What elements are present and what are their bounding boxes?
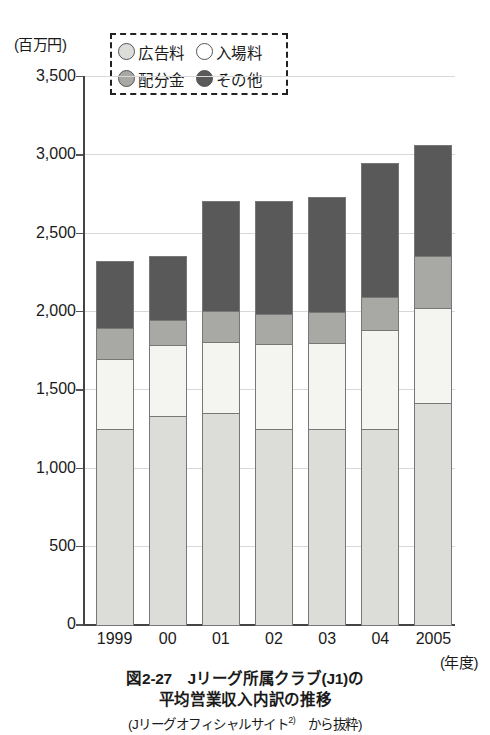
y-tick-1000 xyxy=(76,468,83,469)
bar-segment-2005-入場料 xyxy=(414,308,452,404)
bar-segment-02-その他 xyxy=(255,201,293,315)
bar-segment-2005-その他 xyxy=(414,145,452,258)
y-tick-label-2000: 2,000 xyxy=(10,302,76,320)
bar-group xyxy=(83,76,455,626)
y-tick-500 xyxy=(76,546,83,547)
bar-01 xyxy=(202,201,240,624)
y-tick-1500 xyxy=(76,389,83,390)
bar-segment-03-入場料 xyxy=(308,343,346,430)
caption-source-suffix: から抜粋) xyxy=(295,717,362,732)
bar-segment-01-配分金 xyxy=(202,311,240,343)
bar-segment-00-その他 xyxy=(149,256,187,321)
bar-segment-03-広告料 xyxy=(308,429,346,626)
x-tick-label-04: 04 xyxy=(371,630,389,648)
legend-label-kokokuryo: 広告料 xyxy=(138,41,185,63)
x-tick-label-03: 03 xyxy=(318,630,336,648)
y-tick-2000 xyxy=(76,311,83,312)
caption-source-prefix: (Jリーグオフィシャルサイト xyxy=(128,717,288,732)
bar-04 xyxy=(361,163,399,625)
y-tick-label-2500: 2,500 xyxy=(10,224,76,242)
y-tick-label-3500: 3,500 xyxy=(10,67,76,85)
legend-item-kokokuryo: 広告料 xyxy=(118,41,185,63)
caption-line-2: 平均営業収入内訳の推移 xyxy=(0,689,490,710)
x-tick-label-00: 00 xyxy=(159,630,177,648)
bar-segment-04-入場料 xyxy=(361,330,399,429)
y-tick-label-500: 500 xyxy=(10,537,76,555)
bar-segment-1999-配分金 xyxy=(96,328,134,359)
bar-segment-2005-広告料 xyxy=(414,403,452,625)
bar-segment-03-その他 xyxy=(308,197,346,313)
bar-segment-03-配分金 xyxy=(308,312,346,344)
bar-segment-01-入場料 xyxy=(202,342,240,414)
y-tick-2500 xyxy=(76,233,83,234)
x-tick-label-02: 02 xyxy=(265,630,283,648)
legend-label-nyujoryo: 入場料 xyxy=(216,41,263,63)
bar-03 xyxy=(308,197,346,624)
x-tick-label-2005: 2005 xyxy=(416,630,452,648)
y-tick-label-0: 0 xyxy=(10,615,76,633)
legend-item-nyujoryo: 入場料 xyxy=(196,41,263,63)
bar-segment-04-広告料 xyxy=(361,429,399,626)
bar-1999 xyxy=(96,261,134,625)
bar-segment-2005-配分金 xyxy=(414,256,452,308)
bar-segment-02-広告料 xyxy=(255,429,293,626)
bar-segment-1999-広告料 xyxy=(96,429,134,626)
bar-segment-1999-その他 xyxy=(96,261,134,330)
x-tick-label-1999: 1999 xyxy=(97,630,133,648)
legend-swatch-kokokuryo xyxy=(118,43,135,60)
legend-row-1: 広告料 入場料 xyxy=(118,38,280,65)
bar-segment-04-配分金 xyxy=(361,297,399,331)
y-tick-0 xyxy=(76,624,83,625)
bar-segment-00-配分金 xyxy=(149,320,187,346)
x-axis-tick-labels: 199900010203042005 xyxy=(83,630,455,652)
x-tick-label-01: 01 xyxy=(212,630,230,648)
bar-segment-1999-入場料 xyxy=(96,359,134,430)
caption-line-1: 図2-27 Jリーグ所属クラブ(J1)の xyxy=(0,668,490,689)
figure-caption: 図2-27 Jリーグ所属クラブ(J1)の 平均営業収入内訳の推移 (Jリーグオフ… xyxy=(0,668,490,735)
y-tick-3000 xyxy=(76,154,83,155)
y-tick-label-1000: 1,000 xyxy=(10,459,76,477)
y-axis-tick-labels: 3,5003,0002,5002,0001,5001,0005000 xyxy=(0,76,76,626)
plot-area xyxy=(83,76,455,626)
bar-2005 xyxy=(414,145,452,625)
bar-segment-01-その他 xyxy=(202,201,240,312)
bar-segment-00-入場料 xyxy=(149,345,187,417)
y-tick-label-1500: 1,500 xyxy=(10,380,76,398)
bar-02 xyxy=(255,201,293,624)
bar-segment-02-入場料 xyxy=(255,344,293,430)
bar-00 xyxy=(149,256,187,625)
legend-swatch-nyujoryo xyxy=(196,43,213,60)
y-tick-3500 xyxy=(76,76,83,77)
bar-segment-04-その他 xyxy=(361,163,399,299)
bar-segment-01-広告料 xyxy=(202,413,240,625)
y-axis-unit-label: (百万円) xyxy=(14,33,67,54)
bar-segment-02-配分金 xyxy=(255,314,293,345)
y-tick-label-3000: 3,000 xyxy=(10,145,76,163)
bar-segment-00-広告料 xyxy=(149,416,187,626)
caption-line-3: (Jリーグオフィシャルサイト2) から抜粋) xyxy=(0,710,490,735)
